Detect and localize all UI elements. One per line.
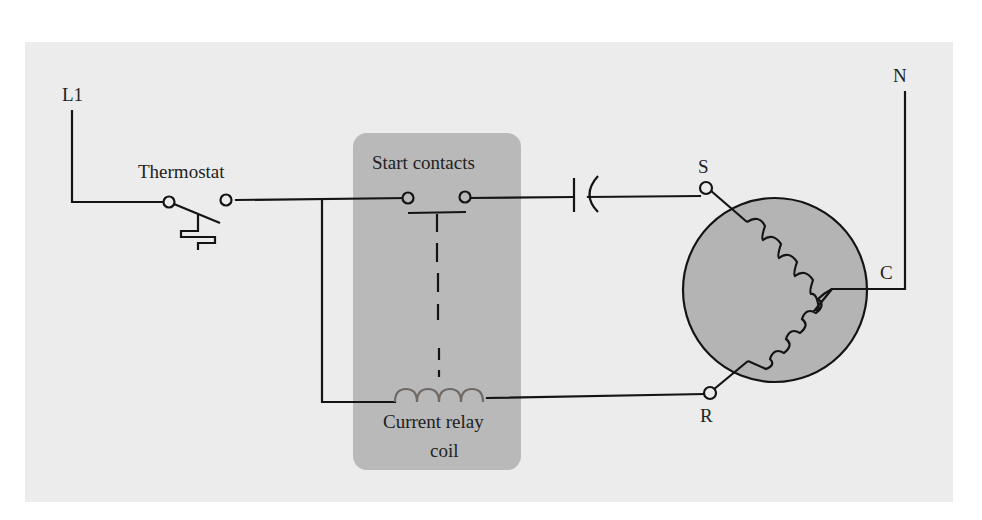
c-terminal-label: C bbox=[880, 262, 893, 283]
contacts-to-capacitor-wire bbox=[468, 197, 573, 198]
l1-label: L1 bbox=[62, 84, 83, 105]
capacitor-icon bbox=[574, 176, 598, 212]
schematic: L1 Thermostat Start contacts Current rel… bbox=[0, 0, 982, 520]
relay-coil-label-line1: Current relay bbox=[383, 411, 484, 432]
l1-wire bbox=[72, 111, 163, 202]
thermostat-symbol bbox=[164, 195, 232, 251]
start-contacts-label: Start contacts bbox=[372, 152, 475, 173]
capacitor-to-s-wire bbox=[588, 196, 700, 197]
thermostat-label: Thermostat bbox=[138, 161, 225, 182]
s-terminal-label: S bbox=[698, 156, 709, 177]
n-label: N bbox=[893, 65, 907, 86]
relay-coil-label-line2: coil bbox=[430, 440, 459, 461]
r-terminal-label: R bbox=[700, 405, 713, 426]
